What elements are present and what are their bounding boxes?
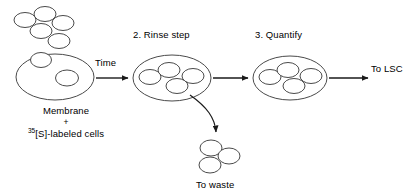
membrane-label: Membrane — [0, 106, 132, 117]
rinse-inner-cell — [158, 63, 180, 78]
quantify-inner-cell — [283, 79, 305, 94]
label-quantify: 3. Quantify — [255, 30, 302, 41]
labeled-cells-text: [S]-labeled cells — [35, 128, 104, 139]
membrane-stage — [16, 53, 94, 101]
arrow-rinse-to-waste — [190, 95, 216, 132]
waste-cell — [218, 148, 240, 164]
membrane-edge-cell — [31, 53, 52, 68]
waste-cells-cluster — [199, 140, 240, 173]
assay-workflow-diagram: 2. Rinse step 3. Quantify Time To LSC To… — [0, 0, 417, 194]
membrane-caption: Membrane + 35[S]-labeled cells — [0, 106, 132, 140]
free-cell — [30, 24, 52, 39]
labeled-cells-label: 35[S]-labeled cells — [0, 129, 132, 140]
free-cell — [34, 7, 56, 22]
waste-cell — [199, 157, 221, 173]
membrane-inner-cell — [56, 70, 79, 86]
rinse-stage — [133, 55, 211, 101]
rinse-inner-cell — [166, 79, 188, 94]
rinse-inner-cell — [139, 70, 161, 85]
plus-symbol: + — [0, 118, 132, 128]
diagram-canvas — [0, 0, 417, 194]
free-cell — [52, 16, 74, 31]
quantify-inner-cell — [300, 69, 322, 84]
membrane-outline — [16, 54, 94, 100]
label-rinse-step: 2. Rinse step — [133, 30, 190, 41]
free-cell — [14, 13, 36, 28]
quantify-stage — [253, 56, 327, 100]
label-to-waste: To waste — [196, 180, 234, 191]
label-time: Time — [95, 58, 116, 69]
quantify-inner-cell — [277, 63, 299, 78]
label-to-lsc: To LSC — [371, 64, 403, 75]
free-cells-cluster — [14, 7, 74, 49]
free-cell — [48, 34, 70, 49]
